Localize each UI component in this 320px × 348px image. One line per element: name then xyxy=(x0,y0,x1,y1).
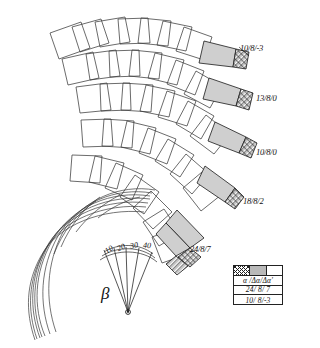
legend-swatch-row xyxy=(234,266,282,276)
legend-row-1: 24/ 8/ 7 xyxy=(234,286,282,296)
grey-swatch xyxy=(250,266,266,275)
chain-label-1: 10/8/-3 xyxy=(240,43,263,53)
wedge-chain-2 xyxy=(203,78,253,110)
rect-chain-2 xyxy=(62,50,222,108)
beta-fan-scale xyxy=(100,245,157,314)
chain-label-5: 24/8/7 xyxy=(190,244,211,254)
legend-row-2: 10/ 8/-3 xyxy=(234,295,282,305)
rect-chain-1 xyxy=(50,17,212,60)
hatched-swatch xyxy=(234,266,250,275)
legend-header: α /Δα/Δα' xyxy=(234,276,282,286)
beta-symbol: β xyxy=(101,284,109,304)
legend-table: α /Δα/Δα' 24/ 8/ 7 10/ 8/-3 xyxy=(233,265,283,305)
chain-label-4: 18/8/2 xyxy=(243,196,264,206)
white-swatch xyxy=(267,266,282,275)
chain-label-3: 10/8/0 xyxy=(256,147,277,157)
fan-tick-30: 30 xyxy=(129,240,138,250)
wedge-chain-4 xyxy=(197,166,244,209)
chain-label-2: 13/8/0 xyxy=(256,93,277,103)
fan-tick-40: 40 xyxy=(143,241,151,250)
